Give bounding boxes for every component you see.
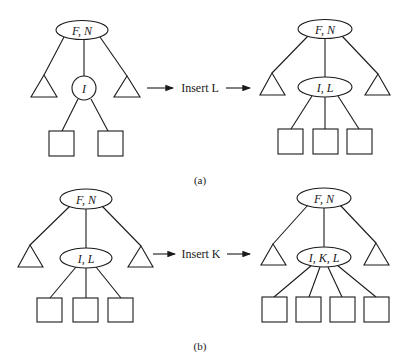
leaf-box: [347, 129, 372, 154]
operation-label: Insert K: [182, 247, 221, 261]
edge: [274, 265, 312, 297]
operation-label: Insert L: [181, 81, 219, 95]
edge: [342, 36, 378, 74]
leaf-box: [98, 131, 123, 156]
leaf-box: [330, 297, 355, 322]
panel-a-after-tree: F, N I, L: [260, 20, 390, 155]
panel-caption: (b): [194, 340, 207, 353]
subtree-triangle-right: [114, 76, 140, 97]
leaf-box: [73, 298, 98, 322]
edge: [62, 99, 78, 131]
panel-b-after-tree: F, N I, K, L: [261, 188, 389, 322]
leaf-box: [364, 297, 389, 322]
root-node-label: F, N: [313, 192, 335, 206]
child-node-label: I, L: [77, 252, 95, 266]
edge: [50, 267, 76, 298]
subtree-triangle-right: [364, 243, 389, 265]
subtree-triangle-left: [261, 244, 286, 265]
edge: [273, 205, 308, 244]
panel-b-operation: Insert K: [153, 247, 250, 261]
edge: [100, 37, 127, 76]
root-node-label: F, N: [75, 193, 97, 207]
edge: [291, 96, 312, 129]
edge: [272, 36, 308, 73]
edge: [44, 37, 64, 75]
edge: [309, 267, 320, 297]
edge: [30, 206, 70, 245]
edge: [328, 267, 342, 297]
edge: [102, 206, 141, 246]
leaf-box: [49, 131, 74, 156]
edge: [337, 265, 376, 297]
btree-insertion-diagram: F, N I Insert L F, N: [0, 0, 406, 363]
root-node-label: F, N: [314, 23, 336, 37]
panel-a: F, N I Insert L F, N: [31, 20, 390, 188]
subtree-triangle-left: [260, 73, 285, 95]
panel-b: F, N I, L Insert K F, N: [18, 188, 389, 353]
edge: [340, 205, 376, 243]
subtree-triangle-right: [128, 246, 153, 267]
root-node-label: F, N: [71, 24, 93, 38]
leaf-box: [278, 129, 303, 154]
edge: [91, 99, 108, 131]
panel-caption: (a): [194, 174, 207, 187]
leaf-box: [108, 298, 133, 322]
subtree-triangle-left: [18, 245, 43, 267]
panel-a-before-tree: F, N I: [31, 21, 140, 157]
child-node-label: I, L: [316, 81, 334, 95]
leaf-box: [262, 297, 287, 322]
leaf-box: [296, 297, 321, 322]
child-node-label: I, K, L: [308, 251, 340, 265]
panel-b-before-tree: F, N I, L: [18, 189, 153, 322]
leaf-box: [313, 129, 338, 154]
subtree-triangle-right: [365, 74, 390, 95]
subtree-triangle-left: [31, 75, 57, 97]
leaf-box: [37, 298, 62, 322]
panel-a-operation: Insert L: [147, 81, 250, 95]
edge: [96, 267, 121, 298]
edge: [338, 96, 359, 129]
